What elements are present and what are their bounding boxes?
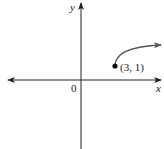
y-axis-label: y <box>69 1 75 13</box>
point-label: (3, 1) <box>120 61 144 74</box>
origin-label: 0 <box>71 82 77 94</box>
start-point-dot <box>112 63 117 68</box>
graph: (3, 1) 0 x y <box>0 0 164 149</box>
x-axis-label: x <box>155 82 161 94</box>
